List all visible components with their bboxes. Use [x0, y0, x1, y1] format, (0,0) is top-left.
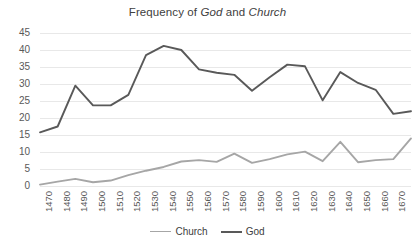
- x-tick-label: 1630: [327, 191, 337, 212]
- x-tick-label: 1500: [97, 191, 107, 212]
- gridlines: [40, 34, 411, 187]
- y-tick-label: 40: [4, 45, 30, 55]
- y-tick-label: 10: [4, 147, 30, 157]
- chart-legend: ChurchGod: [0, 226, 415, 237]
- x-tick-label: 1580: [238, 191, 248, 212]
- x-tick-label: 1620: [309, 191, 319, 212]
- legend-swatch-icon: [150, 231, 171, 232]
- y-tick-label: 30: [4, 79, 30, 89]
- x-tick-label: 1480: [62, 191, 72, 212]
- legend-item-church[interactable]: Church: [150, 226, 207, 237]
- x-tick-label: 1610: [291, 191, 301, 212]
- x-tick-label: 1540: [168, 191, 178, 212]
- x-tick-label: 1590: [256, 191, 266, 212]
- legend-item-god[interactable]: God: [221, 226, 265, 237]
- y-tick-label: 15: [4, 130, 30, 140]
- series-line-church: [40, 138, 411, 184]
- x-tick-label: 1530: [150, 191, 160, 212]
- x-tick-label: 1470: [44, 191, 54, 212]
- y-tick-label: 0: [4, 181, 30, 191]
- x-tick-label: 1570: [221, 191, 231, 212]
- x-tick-label: 1550: [185, 191, 195, 212]
- x-tick-label: 1670: [397, 191, 407, 212]
- y-tick-label: 25: [4, 96, 30, 106]
- x-tick-label: 1650: [362, 191, 372, 212]
- x-tick-label: 1520: [132, 191, 142, 212]
- x-tick-label: 1510: [115, 191, 125, 212]
- x-tick-label: 1660: [380, 191, 390, 212]
- chart-container: Frequency of God and Church 051015202530…: [0, 0, 415, 247]
- x-tick-label: 1560: [203, 191, 213, 212]
- legend-label: Church: [175, 226, 207, 237]
- y-tick-label: 20: [4, 113, 30, 123]
- series-line-god: [40, 46, 411, 132]
- x-tick-label: 1600: [274, 191, 284, 212]
- y-tick-label: 45: [4, 28, 30, 38]
- y-tick-label: 35: [4, 62, 30, 72]
- legend-label: God: [246, 226, 265, 237]
- legend-swatch-icon: [221, 231, 242, 233]
- y-tick-label: 5: [4, 164, 30, 174]
- x-tick-label: 1490: [79, 191, 89, 212]
- x-tick-label: 1640: [344, 191, 354, 212]
